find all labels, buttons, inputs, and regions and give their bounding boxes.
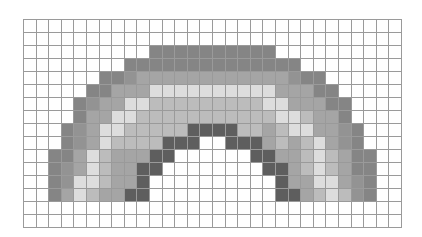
grid-cell-outer-band bbox=[62, 124, 75, 137]
grid-cell-outer-band bbox=[150, 46, 163, 59]
grid-cell-empty bbox=[24, 202, 37, 215]
grid-cell-empty bbox=[62, 111, 75, 124]
grid-cell-empty bbox=[37, 124, 50, 137]
grid-cell-empty bbox=[238, 202, 251, 215]
grid-cell-empty bbox=[49, 85, 62, 98]
grid-cell-second-band bbox=[339, 150, 352, 163]
grid-cell-empty bbox=[389, 98, 402, 111]
grid-cell-outer-band bbox=[49, 189, 62, 202]
grid-cell-fourth-band bbox=[100, 150, 113, 163]
grid-cell-outer-band bbox=[188, 46, 201, 59]
grid-cell-second-band bbox=[276, 72, 289, 85]
grid-cell-fourth-band bbox=[226, 111, 239, 124]
grid-cell-empty bbox=[62, 33, 75, 46]
grid-cell-empty bbox=[251, 189, 264, 202]
grid-cell-empty bbox=[289, 20, 302, 33]
grid-cell-empty bbox=[226, 150, 239, 163]
grid-cell-fourth-band bbox=[150, 98, 163, 111]
grid-cell-empty bbox=[62, 59, 75, 72]
grid-cell-second-band bbox=[163, 72, 176, 85]
grid-cell-second-band bbox=[112, 189, 125, 202]
grid-cell-second-band bbox=[289, 163, 302, 176]
grid-cell-outer-band bbox=[74, 98, 87, 111]
grid-cell-light-band bbox=[87, 163, 100, 176]
grid-cell-empty bbox=[377, 111, 390, 124]
grid-cell-empty bbox=[37, 111, 50, 124]
grid-cell-empty bbox=[62, 72, 75, 85]
grid-cell-empty bbox=[125, 20, 138, 33]
grid-cell-fourth-band bbox=[301, 163, 314, 176]
grid-cell-empty bbox=[62, 215, 75, 228]
grid-cell-light-band bbox=[175, 85, 188, 98]
grid-cell-second-band bbox=[251, 72, 264, 85]
grid-cell-outer-transition-band bbox=[352, 189, 365, 202]
grid-cell-outer-band bbox=[263, 59, 276, 72]
grid-cell-light-band bbox=[314, 137, 327, 150]
grid-cell-empty bbox=[24, 189, 37, 202]
grid-cell-outer-band bbox=[238, 59, 251, 72]
grid-cell-empty bbox=[213, 202, 226, 215]
grid-cell-empty bbox=[238, 176, 251, 189]
grid-cell-outer-band bbox=[364, 189, 377, 202]
grid-cell-outer-band bbox=[87, 85, 100, 98]
grid-cell-outer-transition-band bbox=[62, 176, 75, 189]
grid-cell-empty bbox=[37, 215, 50, 228]
grid-cell-empty bbox=[163, 176, 176, 189]
grid-cell-empty bbox=[326, 215, 339, 228]
grid-cell-fourth-band bbox=[125, 124, 138, 137]
grid-cell-empty bbox=[389, 124, 402, 137]
grid-cell-empty bbox=[301, 33, 314, 46]
grid-cell-empty bbox=[352, 98, 365, 111]
grid-cell-fourth-band bbox=[226, 98, 239, 111]
grid-cell-light-band bbox=[87, 150, 100, 163]
grid-cell-outer-transition-band bbox=[339, 124, 352, 137]
grid-cell-inner-band bbox=[163, 150, 176, 163]
grid-cell-outer-band bbox=[251, 46, 264, 59]
grid-cell-outer-band bbox=[188, 59, 201, 72]
grid-cell-fourth-band bbox=[276, 124, 289, 137]
grid-cell-empty bbox=[200, 150, 213, 163]
grid-cell-second-band bbox=[238, 72, 251, 85]
grid-cell-empty bbox=[238, 33, 251, 46]
grid-cell-inner-band bbox=[263, 163, 276, 176]
grid-cell-outer-transition-band bbox=[289, 72, 302, 85]
grid-cell-empty bbox=[326, 33, 339, 46]
grid-cell-empty bbox=[100, 59, 113, 72]
grid-cell-empty bbox=[352, 85, 365, 98]
grid-cell-empty bbox=[163, 202, 176, 215]
grid-cell-empty bbox=[24, 33, 37, 46]
grid-cell-inner-band bbox=[251, 150, 264, 163]
grid-cell-outer-band bbox=[137, 59, 150, 72]
grid-cell-second-band bbox=[62, 189, 75, 202]
grid-cell-empty bbox=[213, 33, 226, 46]
grid-cell-outer-band bbox=[226, 46, 239, 59]
grid-cell-light-band bbox=[263, 98, 276, 111]
grid-cell-empty bbox=[87, 33, 100, 46]
grid-cell-empty bbox=[87, 215, 100, 228]
grid-cell-second-band bbox=[137, 72, 150, 85]
grid-cell-light-band bbox=[251, 85, 264, 98]
grid-cell-fourth-band bbox=[175, 124, 188, 137]
grid-cell-light-band bbox=[74, 176, 87, 189]
grid-cell-light-band bbox=[100, 137, 113, 150]
grid-cell-empty bbox=[377, 163, 390, 176]
grid-cell-empty bbox=[301, 215, 314, 228]
grid-cell-empty bbox=[213, 163, 226, 176]
grid-cell-empty bbox=[377, 215, 390, 228]
grid-cell-empty bbox=[389, 33, 402, 46]
grid-cell-empty bbox=[213, 150, 226, 163]
grid-cell-empty bbox=[37, 137, 50, 150]
grid-cell-empty bbox=[389, 59, 402, 72]
grid-cell-fourth-band bbox=[276, 137, 289, 150]
grid-cell-empty bbox=[200, 215, 213, 228]
grid-cell-empty bbox=[200, 176, 213, 189]
grid-cell-outer-band bbox=[175, 59, 188, 72]
grid-cell-fourth-band bbox=[301, 111, 314, 124]
grid-cell-empty bbox=[62, 46, 75, 59]
grid-cell-outer-band bbox=[364, 176, 377, 189]
grid-cell-outer-band bbox=[364, 150, 377, 163]
grid-cell-second-band bbox=[112, 98, 125, 111]
grid-cell-fourth-band bbox=[150, 137, 163, 150]
grid-cell-empty bbox=[150, 202, 163, 215]
grid-cell-outer-band bbox=[326, 85, 339, 98]
